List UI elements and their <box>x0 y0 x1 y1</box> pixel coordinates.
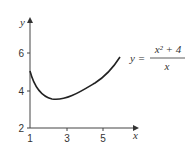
x-tick-label: 1 <box>27 133 33 144</box>
equation-label: y = x² + 4 x <box>129 43 185 72</box>
equation-numerator: x² + 4 <box>154 43 182 55</box>
x-tick-label: 5 <box>100 133 106 144</box>
x-tick-label: 3 <box>64 133 70 144</box>
y-tick-label: 4 <box>18 86 24 97</box>
equation-denominator: x <box>164 60 170 72</box>
y-axis-label: y <box>19 16 25 28</box>
x-axis-label: x <box>132 129 138 141</box>
y-tick-label: 2 <box>18 123 24 134</box>
equation-lhs: y = <box>129 52 145 64</box>
curve <box>30 57 120 99</box>
y-tick-label: 6 <box>18 48 24 59</box>
chart: 6 4 2 1 3 5 y x y = x² + 4 x <box>0 0 194 154</box>
